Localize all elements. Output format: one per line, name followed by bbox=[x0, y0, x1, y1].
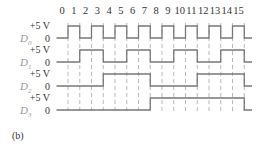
column-number: 15 bbox=[233, 5, 244, 16]
timing-diagram: 0123456789101112131415 +5 V0D0+5 V0D1+5 … bbox=[0, 0, 268, 149]
column-number: 3 bbox=[95, 5, 100, 16]
high-level-label: +5 V bbox=[30, 20, 51, 31]
low-level-label: 0 bbox=[45, 81, 50, 92]
low-level-label: 0 bbox=[45, 33, 50, 44]
column-number: 7 bbox=[142, 5, 147, 16]
column-number: 4 bbox=[107, 5, 113, 16]
signal-row-d1: +5 V0D1 bbox=[19, 44, 252, 71]
column-number: 12 bbox=[198, 5, 209, 16]
signal-subscript: 3 bbox=[27, 111, 32, 119]
column-number: 9 bbox=[165, 5, 170, 16]
column-number: 11 bbox=[186, 5, 196, 16]
column-number: 14 bbox=[221, 5, 232, 16]
waveform bbox=[57, 26, 253, 38]
waveform bbox=[57, 98, 253, 110]
column-number: 10 bbox=[174, 5, 185, 16]
column-number: 2 bbox=[83, 5, 88, 16]
column-numbers: 0123456789101112131415 bbox=[60, 5, 244, 16]
high-level-label: +5 V bbox=[30, 92, 51, 103]
figure-caption: (b) bbox=[12, 130, 24, 142]
column-number: 5 bbox=[118, 5, 123, 16]
low-level-label: 0 bbox=[45, 105, 50, 116]
signal-row-d2: +5 V0D2 bbox=[19, 68, 252, 95]
signal-row-d0: +5 V0D0 bbox=[19, 20, 252, 47]
column-number: 6 bbox=[130, 5, 135, 16]
column-number: 8 bbox=[154, 5, 159, 16]
high-level-label: +5 V bbox=[30, 68, 51, 79]
column-number: 1 bbox=[71, 5, 76, 16]
signal-row-d3: +5 V0D3 bbox=[19, 92, 252, 119]
signal-rows: +5 V0D0+5 V0D1+5 V0D2+5 V0D3 bbox=[19, 20, 252, 119]
waveform bbox=[57, 74, 253, 86]
column-number: 13 bbox=[210, 5, 221, 16]
signal-name: D3 bbox=[19, 104, 32, 119]
high-level-label: +5 V bbox=[30, 44, 51, 55]
low-level-label: 0 bbox=[45, 57, 50, 68]
waveform bbox=[57, 50, 253, 62]
column-number: 0 bbox=[60, 5, 65, 16]
